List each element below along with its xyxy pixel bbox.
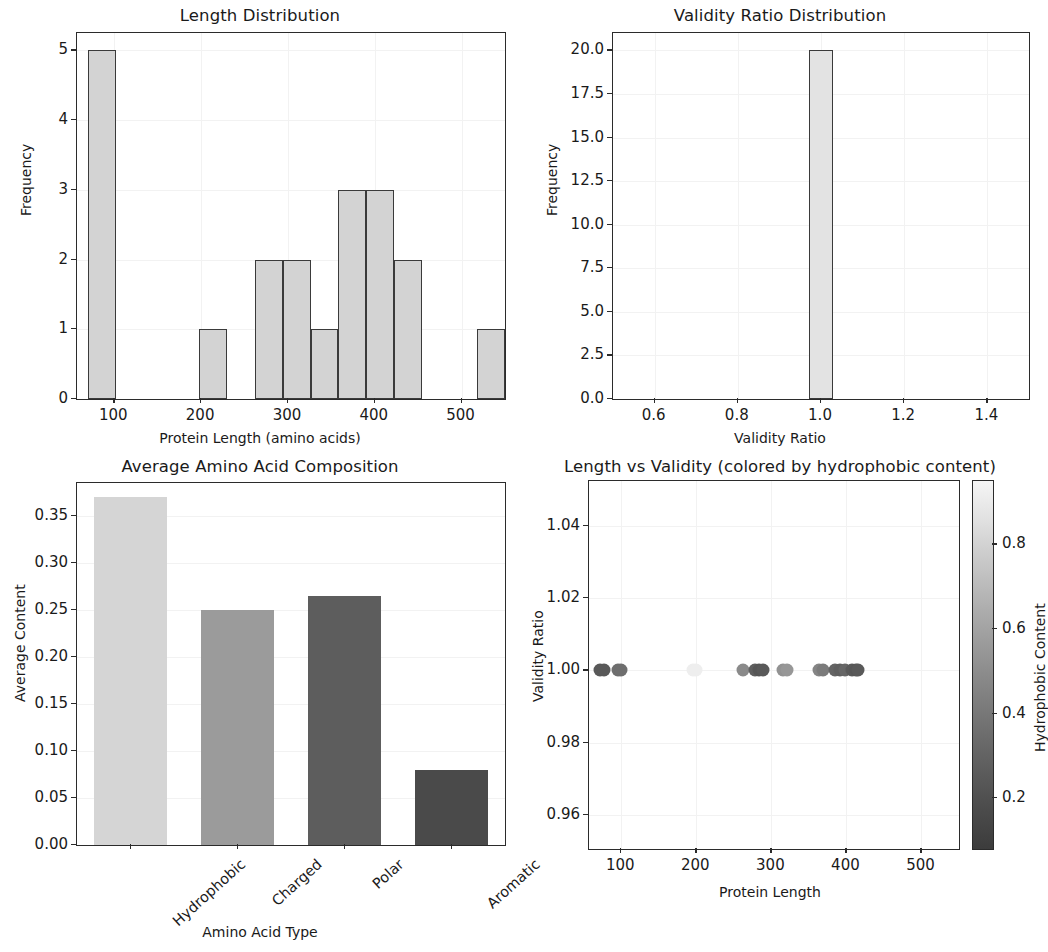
axes-length-vs-validity — [588, 480, 960, 850]
composition-bar — [308, 596, 381, 845]
colorbar-tick-label: 0.4 — [1002, 704, 1026, 722]
scatter-point — [598, 664, 611, 677]
scatter-point — [852, 664, 865, 677]
y-tick-label: 15.0 — [550, 128, 604, 146]
y-tick-label: 0.30 — [6, 553, 68, 571]
x-tick-label: 400 — [359, 406, 388, 424]
y-tick-mark — [607, 49, 612, 50]
gridline-horizontal — [589, 743, 959, 744]
histogram-bar — [311, 329, 339, 399]
x-tick-mark — [451, 844, 452, 849]
x-tick-mark — [344, 844, 345, 849]
y-tick-label: 5 — [14, 40, 68, 58]
y-tick-label: 0.35 — [6, 506, 68, 524]
y-tick-label: 0.25 — [6, 600, 68, 618]
axes-amino-acid-composition — [76, 482, 506, 846]
panel-length-vs-validity: Length vs Validity (colored by hydrophob… — [520, 452, 1040, 952]
x-tick-mark — [986, 398, 987, 403]
y-tick-label: 0.96 — [526, 805, 580, 823]
gridline-horizontal — [589, 598, 959, 599]
x-axis-label-protein-length: Protein Length (amino acids) — [0, 430, 520, 446]
y-tick-mark — [71, 515, 76, 516]
x-tick-label: 100 — [99, 406, 128, 424]
panel-validity-ratio-distribution: Validity Ratio Distribution Frequency Va… — [520, 0, 1040, 452]
x-tick-mark — [200, 398, 201, 403]
scatter-point — [615, 664, 628, 677]
gridline-horizontal — [589, 815, 959, 816]
y-tick-label: 2.5 — [550, 345, 604, 363]
y-tick-mark — [607, 137, 612, 138]
x-tick-label: 300 — [756, 856, 785, 874]
x-tick-mark — [287, 398, 288, 403]
y-tick-mark — [583, 669, 588, 670]
gridline-vertical — [921, 481, 922, 849]
panel-length-distribution: Length Distribution Frequency Protein Le… — [0, 0, 520, 452]
histogram-bar — [338, 190, 366, 399]
y-tick-mark — [583, 525, 588, 526]
x-tick-mark — [130, 844, 131, 849]
gridline-horizontal — [77, 399, 505, 400]
y-tick-label: 0 — [14, 389, 68, 407]
y-tick-label: 1 — [14, 319, 68, 337]
composition-bar — [201, 610, 274, 845]
scatter-point — [781, 664, 794, 677]
y-tick-label: 0.20 — [6, 647, 68, 665]
y-tick-mark — [71, 609, 76, 610]
x-tick-label: 200 — [186, 406, 215, 424]
y-tick-label: 1.02 — [526, 588, 580, 606]
histogram-bar — [255, 260, 283, 399]
y-tick-mark — [607, 267, 612, 268]
y-tick-mark — [607, 354, 612, 355]
gridline-horizontal — [589, 670, 959, 671]
y-tick-mark — [583, 814, 588, 815]
x-tick-mark — [237, 844, 238, 849]
histogram-bar — [283, 260, 311, 399]
x-tick-mark — [770, 848, 771, 853]
x-axis-label-amino-acid-type: Amino Acid Type — [0, 924, 520, 940]
histogram-bar — [394, 260, 422, 399]
y-tick-label: 0.00 — [6, 835, 68, 853]
gridline-horizontal — [77, 120, 505, 121]
x-tick-mark — [903, 398, 904, 403]
y-tick-mark — [607, 224, 612, 225]
x-tick-label-category: Charged — [268, 856, 324, 909]
x-tick-label: 500 — [446, 406, 475, 424]
histogram-bar — [809, 50, 834, 399]
gridline-vertical — [771, 481, 772, 849]
y-tick-label: 7.5 — [550, 258, 604, 276]
y-tick-label: 12.5 — [550, 171, 604, 189]
scatter-point — [757, 664, 770, 677]
y-tick-label: 3 — [14, 180, 68, 198]
y-tick-mark — [71, 844, 76, 845]
x-tick-mark — [845, 848, 846, 853]
colorbar-tick-label: 0.6 — [1002, 619, 1026, 637]
gridline-vertical — [655, 33, 656, 399]
x-tick-mark — [620, 848, 621, 853]
gridline-horizontal — [589, 526, 959, 527]
y-tick-mark — [583, 597, 588, 598]
histogram-bar — [366, 190, 394, 399]
y-tick-mark — [607, 311, 612, 312]
y-tick-mark — [607, 180, 612, 181]
x-tick-mark — [654, 398, 655, 403]
x-tick-mark — [374, 398, 375, 403]
gridline-horizontal — [77, 190, 505, 191]
colorbar-tick-mark — [992, 543, 997, 544]
y-tick-mark — [71, 656, 76, 657]
axes-validity-ratio-distribution — [612, 32, 1030, 400]
composition-bar — [94, 497, 167, 845]
x-tick-mark — [920, 848, 921, 853]
panel-title-length-distribution: Length Distribution — [0, 6, 520, 25]
histogram-bar — [477, 329, 505, 399]
y-tick-mark — [71, 49, 76, 50]
x-tick-label: 1.4 — [974, 406, 998, 424]
gridline-vertical — [738, 33, 739, 399]
composition-bar — [415, 770, 488, 845]
panel-title-amino-acid-composition: Average Amino Acid Composition — [0, 457, 520, 476]
x-tick-label: 400 — [831, 856, 860, 874]
x-tick-label-category: Polar — [369, 856, 406, 892]
colorbar-tick-mark — [992, 628, 997, 629]
y-tick-mark — [71, 189, 76, 190]
colorbar-tick-label: 0.8 — [1002, 534, 1026, 552]
